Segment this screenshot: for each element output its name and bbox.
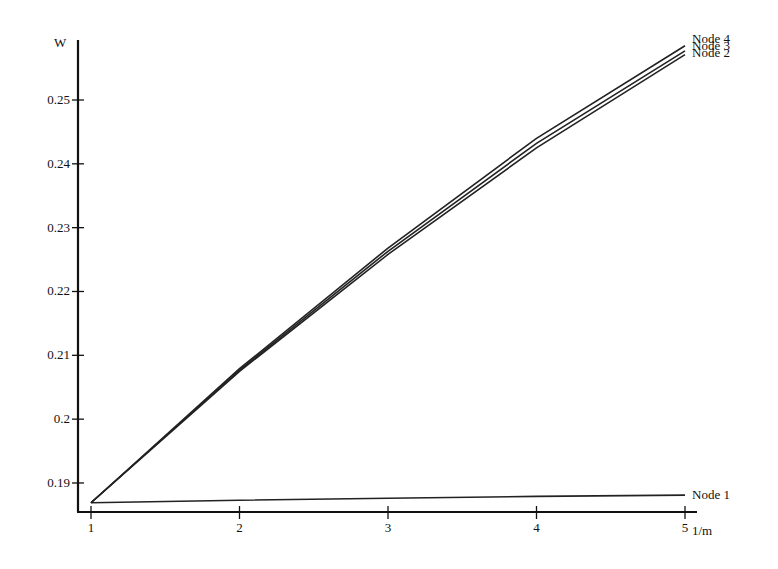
series-line-node-4 bbox=[91, 46, 685, 503]
series-label-node-4: Node 4 bbox=[692, 31, 730, 46]
x-tick-label: 3 bbox=[385, 520, 392, 535]
x-tick-label: 2 bbox=[236, 520, 243, 535]
y-tick-label: 0.25 bbox=[47, 92, 70, 107]
y-tick-label: 0.2 bbox=[54, 411, 70, 426]
y-tick-label: 0.22 bbox=[47, 283, 70, 298]
series-line-node-1 bbox=[91, 495, 685, 503]
series-labels: Node 1Node 2Node 3Node 4 bbox=[692, 31, 730, 502]
x-axis-label: 1/m bbox=[692, 523, 712, 538]
y-tick-label: 0.23 bbox=[47, 220, 70, 235]
x-tick-label: 4 bbox=[533, 520, 540, 535]
x-tick-label: 1 bbox=[88, 520, 95, 535]
y-axis-label: W bbox=[54, 35, 67, 50]
x-tick-label: 5 bbox=[682, 520, 689, 535]
series-layer bbox=[91, 46, 685, 503]
series-label-node-1: Node 1 bbox=[692, 487, 730, 502]
x-ticks: 12345 bbox=[88, 506, 689, 535]
series-line-node-2 bbox=[91, 55, 685, 503]
series-line-node-3 bbox=[91, 51, 685, 503]
y-tick-label: 0.21 bbox=[47, 347, 70, 362]
y-tick-label: 0.19 bbox=[47, 475, 70, 490]
line-chart: 0.190.20.210.220.230.240.25 12345 W 1/m … bbox=[0, 0, 778, 569]
y-tick-label: 0.24 bbox=[47, 156, 70, 171]
